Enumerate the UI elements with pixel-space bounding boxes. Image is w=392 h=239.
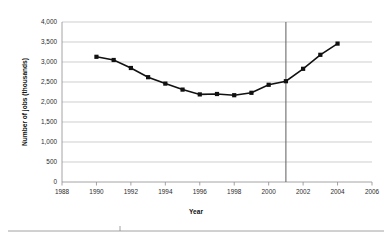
y-tick-0: 0 [53, 178, 57, 185]
y-tick-4000: 4,000 [41, 18, 57, 25]
data-point [146, 75, 150, 79]
data-point [129, 66, 133, 70]
y-tick-1500: 1,500 [41, 118, 57, 125]
data-point [215, 92, 219, 96]
jobs-line-chart: 4,000 3,500 3,000 2,500 2,000 1,500 1,00… [0, 0, 392, 239]
y-axis-title: Number of jobs (thousands) [21, 58, 29, 146]
x-tick-marks [62, 182, 372, 186]
data-point [112, 58, 116, 62]
y-tick-1000: 1,000 [41, 138, 57, 145]
x-tick-2006: 2006 [365, 188, 380, 195]
data-point [198, 92, 202, 96]
x-tick-labels: 1988 1990 1992 1994 1996 1998 2000 2002 … [55, 188, 380, 195]
data-point [335, 42, 339, 46]
x-tick-2000: 2000 [262, 188, 277, 195]
data-point [232, 93, 236, 97]
data-point [180, 88, 184, 92]
y-tick-500: 500 [46, 158, 57, 165]
data-point [163, 82, 167, 86]
data-point [301, 67, 305, 71]
data-point [267, 83, 271, 87]
y-tick-3000: 3,000 [41, 58, 57, 65]
data-point [318, 53, 322, 57]
x-tick-1994: 1994 [158, 188, 173, 195]
data-point [249, 91, 253, 95]
data-point [94, 55, 98, 59]
x-tick-1996: 1996 [193, 188, 208, 195]
chart-figure: 4,000 3,500 3,000 2,500 2,000 1,500 1,00… [0, 0, 392, 239]
x-axis-title: Year [189, 208, 203, 215]
data-point [284, 79, 288, 83]
y-tick-labels: 4,000 3,500 3,000 2,500 2,000 1,500 1,00… [41, 18, 57, 185]
x-tick-1998: 1998 [227, 188, 242, 195]
x-tick-2004: 2004 [330, 188, 345, 195]
x-tick-1990: 1990 [89, 188, 104, 195]
x-tick-1988: 1988 [55, 188, 70, 195]
x-tick-2002: 2002 [296, 188, 311, 195]
y-tick-2500: 2,500 [41, 78, 57, 85]
x-tick-1992: 1992 [124, 188, 139, 195]
y-tick-3500: 3,500 [41, 38, 57, 45]
y-tick-2000: 2,000 [41, 98, 57, 105]
